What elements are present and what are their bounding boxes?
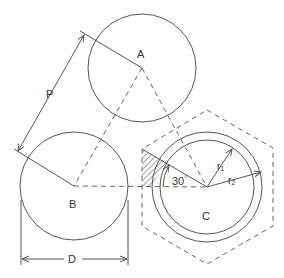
pitch-diagram: A B C P D 30° r1 r2 <box>0 0 284 278</box>
label-a: A <box>137 48 145 60</box>
label-c: C <box>202 210 210 222</box>
extension-line-a <box>80 31 142 68</box>
label-p: P <box>46 88 53 100</box>
label-b: B <box>69 198 76 210</box>
label-d: D <box>68 253 76 265</box>
center-line-ab <box>74 68 142 186</box>
label-angle: 30° <box>172 175 187 187</box>
label-r2: r2 <box>228 175 235 186</box>
center-line-bc <box>74 186 207 187</box>
